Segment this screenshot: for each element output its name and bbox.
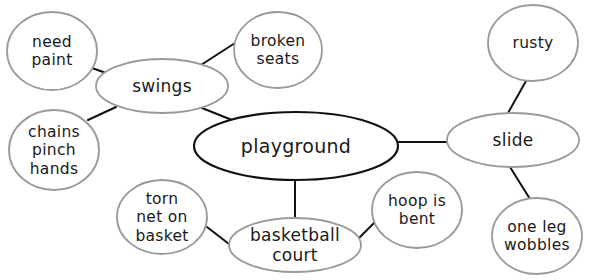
connector-slide-to-one-leg-wobbles xyxy=(510,167,530,199)
node-label-line: hands xyxy=(30,159,79,177)
node-label-line: rusty xyxy=(512,34,553,52)
node-label-line: one leg xyxy=(507,218,567,236)
node-label-line: slide xyxy=(492,130,533,150)
node-label-swings: swings xyxy=(132,76,192,96)
connector-basketball-court-to-hoop-is-bent xyxy=(359,222,375,238)
node-label-torn-net-on-basket: tornnet onbasket xyxy=(135,190,188,245)
node-label-line: swings xyxy=(132,76,192,96)
node-label-line: net on xyxy=(136,208,187,226)
connector-swings-to-broken-seats xyxy=(201,43,235,65)
node-label-line: broken xyxy=(251,32,306,50)
node-label-playground: playground xyxy=(241,135,351,157)
node-label-line: basketball xyxy=(250,225,340,245)
node-label-hoop-is-bent: hoop isbent xyxy=(388,192,446,229)
node-label-line: basket xyxy=(135,226,188,244)
idea-web-diagram: playgroundswingsslidebasketballcourtneed… xyxy=(0,0,590,280)
connector-chains-pinch-hands-to-swings xyxy=(88,107,116,120)
connector-rusty-to-slide xyxy=(508,81,526,113)
node-label-line: bent xyxy=(399,210,435,228)
node-label-line: wobbles xyxy=(504,236,570,254)
connector-torn-net-on-basket-to-basketball-court xyxy=(207,227,229,244)
node-label-slide: slide xyxy=(492,130,533,150)
node-label-broken-seats: brokenseats xyxy=(251,32,306,69)
node-label-line: pinch xyxy=(32,141,76,159)
node-label-line: chains xyxy=(28,123,80,141)
node-label-one-leg-wobbles: one legwobbles xyxy=(504,218,570,255)
node-label-line: torn xyxy=(146,190,179,208)
node-label-line: court xyxy=(272,245,318,265)
node-label-line: need xyxy=(32,33,72,51)
node-label-line: paint xyxy=(31,51,72,69)
connector-swings-to-playground xyxy=(202,108,232,120)
node-label-need-paint: needpaint xyxy=(31,33,72,70)
node-label-chains-pinch-hands: chainspinchhands xyxy=(28,123,80,178)
node-label-line: playground xyxy=(241,135,351,157)
node-label-line: hoop is xyxy=(388,192,446,210)
node-label-rusty: rusty xyxy=(512,34,553,52)
node-label-line: seats xyxy=(257,50,300,68)
node-label-basketball-court: basketballcourt xyxy=(250,225,340,265)
